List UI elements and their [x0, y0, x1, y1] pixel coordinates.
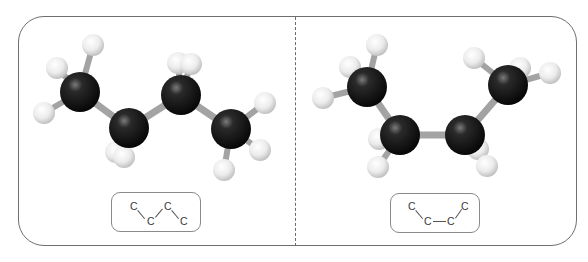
formula-bond	[455, 209, 462, 219]
formula-carbon: C	[180, 216, 188, 227]
hydrogen-atom	[113, 146, 135, 168]
carbon-atom	[380, 115, 420, 155]
carbon-atom	[445, 115, 485, 155]
formula-bond	[433, 221, 446, 222]
hydrogen-atom	[82, 34, 104, 56]
formula-carbon: C	[424, 216, 432, 227]
hydrogen-atom	[367, 156, 389, 178]
hydrogen-atom	[180, 53, 202, 75]
formula-bond	[155, 209, 163, 218]
formula-bond	[137, 210, 145, 219]
hydrogen-atom	[46, 57, 68, 79]
hydrogen-atom	[539, 62, 561, 84]
carbon-atom	[211, 109, 251, 149]
hydrogen-atom	[312, 87, 334, 109]
molecule-models	[0, 0, 588, 262]
hydrogen-atom	[254, 92, 276, 114]
hydrogen-atom	[476, 155, 498, 177]
formula-carbon: C	[447, 216, 455, 227]
formula-box-gauche: C C C C	[390, 193, 480, 233]
formula-carbon: C	[461, 201, 469, 212]
hydrogen-atom	[463, 47, 485, 69]
atoms	[33, 34, 561, 181]
carbon-atom	[488, 65, 528, 105]
hydrogen-atom	[249, 139, 271, 161]
formula-bond	[415, 210, 423, 219]
formula-box-anti: C C C C	[111, 192, 201, 232]
hydrogen-atom	[366, 34, 388, 56]
hydrogen-atom	[33, 102, 55, 124]
carbon-atom	[109, 108, 149, 148]
carbon-atom	[161, 75, 201, 115]
formula-bond	[171, 210, 179, 219]
carbon-atom	[60, 72, 100, 112]
hydrogen-atom	[213, 159, 235, 181]
carbon-atom	[347, 67, 387, 107]
formula-carbon: C	[147, 216, 155, 227]
